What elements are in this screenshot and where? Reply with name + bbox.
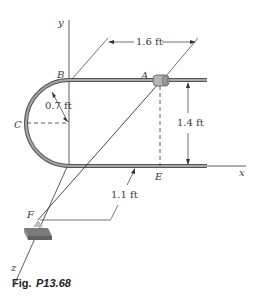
label-E: E <box>154 171 163 182</box>
dimension-1-4-ft: 1.4 ft <box>177 117 204 128</box>
support-block <box>24 220 52 240</box>
label-A: A <box>140 70 148 81</box>
figure-canvas: 1.6 ft 1.4 ft 0.7 ft 1.1 ft y B A C E x … <box>0 0 257 301</box>
label-B: B <box>56 69 64 80</box>
dimension-0-7-ft: 0.7 ft <box>45 100 72 111</box>
label-F: F <box>26 209 35 220</box>
dimension-extension-left <box>72 38 108 79</box>
dimension-1-1-ft: 1.1 ft <box>111 189 138 200</box>
dimension-1-6-ft: 1.6 ft <box>136 36 163 47</box>
figure-caption-id: P13.68 <box>36 277 72 289</box>
dimension-extension-right <box>166 38 198 76</box>
collar <box>153 75 169 86</box>
label-x: x <box>239 167 245 178</box>
label-y: y <box>57 17 64 28</box>
label-C: C <box>14 119 22 130</box>
label-z: z <box>10 262 17 273</box>
figure-caption-prefix: Fig. <box>12 277 32 289</box>
